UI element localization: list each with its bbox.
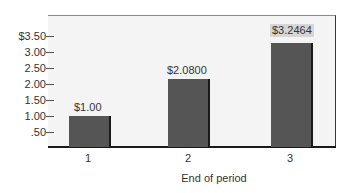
y-tick <box>46 68 54 69</box>
y-tick-label: 3.00 <box>25 47 46 58</box>
x-tick-label: 3 <box>280 152 300 164</box>
y-tick <box>46 116 54 117</box>
y-tick-label: 1.50 <box>25 95 46 106</box>
y-tick-label: 2.50 <box>25 63 46 74</box>
y-tick-label: 1.00 <box>25 111 46 122</box>
x-axis-title: End of period <box>154 172 274 184</box>
y-tick <box>46 84 54 85</box>
y-tick <box>46 132 54 133</box>
y-tick <box>46 52 54 53</box>
value-label-1: $1.00 <box>74 101 102 114</box>
y-tick-label: .50 <box>31 127 46 138</box>
x-tick-label: 2 <box>178 152 198 164</box>
bar-period-2 <box>168 79 210 147</box>
value-label-2: $2.0800 <box>167 64 207 77</box>
y-tick-label: $3.50 <box>18 31 46 42</box>
bar-period-3 <box>271 43 313 147</box>
y-tick <box>46 36 54 37</box>
y-tick-label: 2.00 <box>25 79 46 90</box>
bar-period-1 <box>69 116 111 147</box>
value-label-3: $3.2464 <box>270 24 314 37</box>
y-tick <box>46 100 54 101</box>
x-tick-label: 1 <box>78 152 98 164</box>
